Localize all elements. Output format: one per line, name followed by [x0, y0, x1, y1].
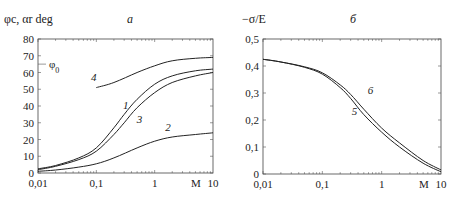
curve-label: 3	[136, 113, 143, 125]
y-tick-label: 10	[23, 150, 35, 162]
y-tick-label: 60	[23, 67, 35, 79]
curve-label: 1	[123, 99, 129, 111]
x-tick-label: 1	[152, 177, 158, 189]
y-axis-label: φc, αr deg	[4, 12, 53, 26]
panel-title: б	[350, 12, 357, 26]
x-tick-label: 0,01	[28, 177, 47, 189]
series-line-2	[38, 133, 213, 172]
y-tick-label: 70	[23, 50, 35, 62]
chart-panel-a: 010203040506070800,010,1110Mφc, αr degа1…	[4, 12, 219, 189]
series-line-3	[38, 73, 213, 170]
y-tick-label: 0,3	[245, 87, 259, 99]
y-tick-label: 0,2	[245, 114, 259, 126]
y-tick-label: 80	[23, 33, 35, 45]
y-tick-label: 0,5	[245, 33, 259, 45]
chart-panel-b: 00,10,20,30,40,50,010,1110M−σ/Eб56	[242, 12, 447, 190]
x-tick-label: 0,1	[89, 177, 103, 189]
x-tick-label: 0,01	[253, 178, 272, 190]
y-tick-label: 0,1	[245, 141, 259, 153]
x-tick-label: 1	[379, 178, 385, 190]
curve-label: 4	[91, 71, 97, 83]
x-tick-label: 0,1	[315, 178, 329, 190]
series-line-4	[96, 57, 213, 87]
x-tick-label: 10	[208, 177, 220, 189]
curve-label: 2	[165, 121, 171, 133]
x-axis-label: M	[191, 177, 201, 189]
phi0-label: φ0	[49, 58, 59, 75]
y-axis-label: −σ/E	[242, 12, 266, 26]
y-tick-label: 40	[23, 100, 35, 112]
y-tick-label: 0,4	[245, 60, 259, 72]
panel-title: а	[127, 12, 133, 26]
curve-label: 6	[368, 84, 374, 96]
x-tick-label: 10	[436, 178, 448, 190]
y-tick-label: 50	[23, 83, 35, 95]
y-tick-label: 30	[23, 117, 35, 129]
y-tick-label: 20	[23, 134, 35, 146]
series-line-1	[38, 69, 213, 169]
x-axis-label: M	[419, 178, 429, 190]
figure: 010203040506070800,010,1110Mφc, αr degа1…	[0, 0, 469, 201]
curve-label: 5	[352, 105, 358, 117]
